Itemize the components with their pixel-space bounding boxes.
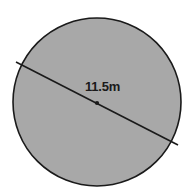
circle-diameter-figure: 11.5m	[0, 0, 196, 194]
center-point-dot	[95, 101, 99, 105]
diameter-measurement-label: 11.5m	[85, 80, 120, 93]
figure-canvas	[0, 0, 196, 194]
